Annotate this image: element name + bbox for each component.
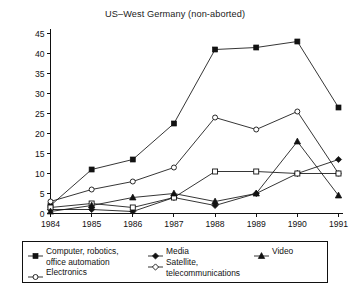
marker-open-circle [171, 165, 176, 170]
x-tick-label: 1986 [123, 219, 142, 229]
legend-entry-label: Video [272, 246, 327, 257]
legend-entry-open-diamond: Satellite, telecommunications [147, 257, 251, 278]
marker-open-square [254, 169, 259, 174]
x-tick-label: 1985 [82, 219, 101, 229]
x-tick-label: 1990 [288, 219, 307, 229]
y-tick-label: 25 [35, 109, 45, 119]
y-tick-label: 35 [35, 69, 45, 79]
legend-entry-label: Electronics [46, 267, 145, 278]
y-tick-label: 45 [35, 29, 45, 39]
y-tick-label: 0 [40, 209, 45, 219]
x-tick-label: 1984 [41, 219, 60, 229]
legend-entry-open-circle: Electronics [27, 267, 145, 278]
marker-open-circle [213, 115, 218, 120]
series-line-0 [51, 42, 339, 206]
open-diamond-icon [147, 258, 164, 268]
marker-filled-square [254, 45, 259, 50]
legend-symbol-filled-square [27, 251, 44, 261]
legend-entry-filled-square: Computer, robotics, office automation [27, 246, 145, 267]
legend-column-1: Computer, robotics, office automationEle… [27, 246, 145, 278]
y-tick-label: 30 [35, 89, 45, 99]
x-tick-label: 1989 [247, 219, 266, 229]
y-tick-label: 5 [40, 189, 45, 199]
marker-open-circle [48, 199, 53, 204]
filled-square-icon [27, 247, 44, 257]
marker-open-square [130, 205, 135, 210]
marker-filled-square [89, 167, 94, 172]
filled-diamond-icon [147, 247, 164, 257]
filled-triangle-icon [253, 247, 270, 257]
legend-column-3: Video [253, 246, 327, 257]
y-tick-label: 15 [35, 149, 45, 159]
marker-open-circle [130, 179, 135, 184]
y-tick-label: 10 [35, 169, 45, 179]
marker-open-square [336, 171, 341, 176]
marker-open-square [295, 171, 300, 176]
legend-entry-label: Media [166, 246, 251, 257]
legend-symbol-open-circle [27, 272, 44, 282]
marker-open-circle [295, 109, 300, 114]
marker-filled-square [213, 47, 218, 52]
marker-filled-square [130, 157, 135, 162]
marker-filled-square [171, 121, 176, 126]
marker-open-circle [254, 127, 259, 132]
legend-entry-label: Computer, robotics, office automation [46, 246, 145, 267]
marker-filled-triangle [171, 190, 177, 196]
legend-symbol-filled-triangle [253, 251, 270, 261]
y-tick-label: 40 [35, 49, 45, 59]
legend-column-2: MediaSatellite, telecommunications [147, 246, 251, 278]
marker-filled-square [295, 39, 300, 44]
marker-filled-diamond [335, 156, 341, 162]
x-tick-label: 1991 [329, 219, 348, 229]
open-circle-icon [27, 268, 44, 278]
marker-open-circle [89, 187, 94, 192]
marker-filled-triangle [294, 138, 300, 144]
x-tick-label: 1987 [164, 219, 183, 229]
chart-figure: US–West Germany (non-aborted) 0510152025… [0, 0, 350, 291]
legend-entry-label: Satellite, telecommunications [166, 257, 251, 278]
marker-filled-square [336, 105, 341, 110]
legend-entry-filled-triangle: Video [253, 246, 327, 257]
legend-entry-filled-diamond: Media [147, 246, 251, 257]
y-tick-label: 20 [35, 129, 45, 139]
x-tick-label: 1988 [206, 219, 225, 229]
legend-symbol-open-diamond [147, 262, 164, 272]
chart-legend: Computer, robotics, office automationEle… [22, 241, 328, 283]
marker-open-square [213, 169, 218, 174]
